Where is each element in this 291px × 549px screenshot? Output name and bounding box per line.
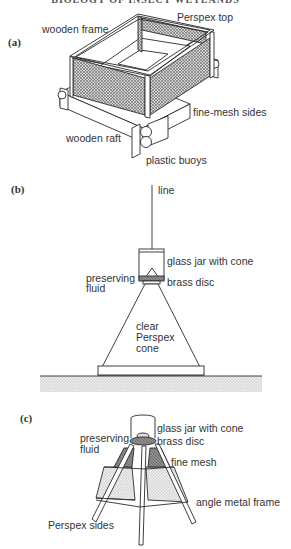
label-cone-3: cone: [136, 343, 159, 354]
label-glass-jar-c: glass jar with cone: [157, 423, 243, 434]
label-brass-disc-c: brass disc: [157, 436, 204, 447]
panel-label-b: (b): [11, 183, 24, 195]
label-fine-mesh-sides: fine-mesh sides: [193, 107, 267, 118]
label-perspex-sides: Perspex sides: [48, 520, 114, 531]
panel-label-a: (a): [8, 36, 21, 48]
label-line: line: [158, 185, 174, 196]
label-wooden-frame: wooden frame: [42, 24, 109, 35]
label-glass-jar-b: glass jar with cone: [167, 256, 253, 267]
panel-label-c: (c): [20, 412, 32, 424]
label-preserving-b2: fluid: [86, 283, 105, 294]
label-plastic-buoys: plastic buoys: [146, 155, 207, 166]
label-fine-mesh: fine mesh: [171, 457, 217, 468]
label-angle-metal-frame: angle metal frame: [196, 497, 280, 508]
label-perspex-top: Perspex top: [177, 12, 233, 23]
figure-b-trap: [40, 185, 262, 392]
diagram-canvas: [0, 0, 291, 549]
label-brass-disc-b: brass disc: [167, 277, 214, 288]
label-wooden-raft: wooden raft: [66, 133, 121, 144]
label-preserving-c2: fluid: [80, 444, 99, 455]
